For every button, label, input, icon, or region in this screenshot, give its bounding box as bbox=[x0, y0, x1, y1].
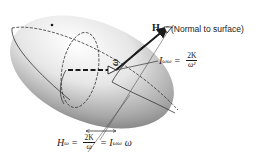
fraction-denominator: ω² bbox=[188, 61, 196, 69]
iww-subscript: ωω bbox=[162, 57, 171, 64]
equals-sign-1: = bbox=[72, 137, 78, 148]
omega-symbol: ω bbox=[125, 137, 132, 148]
fraction: 2K ω² bbox=[186, 52, 197, 69]
normal-to-surface-label: (Normal to surface) bbox=[171, 24, 244, 34]
surface-dot bbox=[51, 24, 54, 27]
equals-sign-2: = bbox=[101, 137, 107, 148]
fraction: 2K ω bbox=[83, 134, 94, 151]
equals-sign: = bbox=[175, 55, 181, 66]
h-symbol: H bbox=[57, 137, 64, 148]
ellipsoid bbox=[0, 0, 190, 152]
h-omega-equation: Hω = 2K ω = Iωω ω bbox=[57, 134, 132, 151]
fraction-denominator: ω bbox=[86, 143, 91, 151]
h-subscript: ω bbox=[64, 139, 69, 146]
i-subscript: ωω bbox=[113, 139, 122, 146]
iww-equation: Iωω = 2K ω² bbox=[159, 52, 200, 69]
h-label: H bbox=[152, 22, 160, 33]
omega-label: ω bbox=[109, 59, 120, 66]
